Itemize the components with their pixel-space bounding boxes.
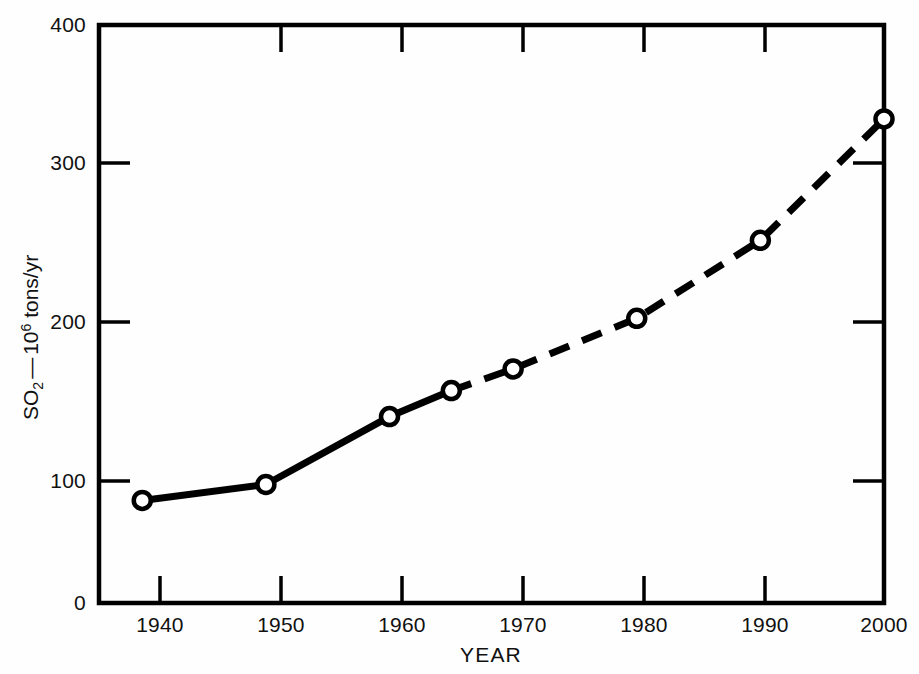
- data-point-2000: [876, 110, 893, 127]
- y-axis-species-subscript: 2: [30, 382, 46, 390]
- ytick-label-100: 100: [34, 469, 86, 493]
- xtick-label-1960: 1960: [378, 613, 426, 637]
- xtick-label-1980: 1980: [620, 613, 668, 637]
- y-axis-dash: —: [19, 355, 42, 382]
- xtick-label-2000: 2000: [860, 613, 908, 637]
- ytick-label-400: 400: [34, 13, 86, 37]
- y-axis-exponent: 6: [18, 324, 34, 332]
- y-axis-title: SO2—106 tons/yr: [18, 255, 46, 420]
- data-point-1940: [134, 492, 151, 509]
- xtick-label-1970: 1970: [499, 613, 547, 637]
- xtick-label-1940: 1940: [136, 613, 184, 637]
- x-axis-title: YEAR: [460, 643, 522, 667]
- data-point-1950: [257, 476, 274, 493]
- data-point-1970: [505, 360, 522, 377]
- y-axis-units: tons/yr: [19, 255, 42, 324]
- chart-figure: 400 300 200 100 0 1940 1950 1960 1970 19…: [0, 0, 919, 674]
- data-point-1990: [752, 232, 769, 249]
- y-axis-species: SO: [19, 390, 42, 420]
- xtick-label-1950: 1950: [257, 613, 305, 637]
- figure-background: [0, 0, 919, 674]
- data-point-1980: [628, 310, 645, 327]
- y-axis-mantissa: 10: [19, 332, 42, 355]
- data-point-1965: [443, 382, 460, 399]
- data-point-1960: [381, 408, 398, 425]
- ytick-label-300: 300: [34, 151, 86, 175]
- xtick-label-1990: 1990: [741, 613, 789, 637]
- ytick-label-0: 0: [34, 591, 86, 615]
- plot-area: [0, 0, 919, 674]
